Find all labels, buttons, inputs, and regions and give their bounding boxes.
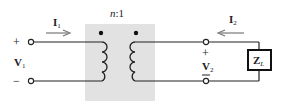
secondary-plus-sign: +	[202, 46, 209, 60]
secondary-minus-terminal	[203, 78, 208, 83]
primary-current-arrow-icon	[46, 30, 70, 36]
transformer-core	[85, 24, 155, 101]
secondary-current-label: I2	[229, 13, 237, 27]
primary-plus-terminal	[28, 39, 33, 44]
secondary-polarity-dot	[134, 31, 138, 35]
primary-plus-sign: +	[13, 35, 20, 49]
secondary-plus-terminal	[203, 39, 208, 44]
secondary-voltage-label: V2	[202, 60, 214, 74]
transformer-diagram: n:1 ZL + − V1 I1 + V2 I2	[0, 0, 283, 101]
primary-current-label: I1	[53, 16, 61, 30]
primary-voltage-label: V1	[14, 56, 26, 70]
turns-ratio-label: n:1	[110, 7, 124, 19]
secondary-current-arrow-icon	[218, 30, 244, 36]
primary-polarity-dot	[99, 31, 103, 35]
primary-minus-terminal	[28, 78, 33, 83]
primary-minus-sign: −	[13, 74, 20, 88]
